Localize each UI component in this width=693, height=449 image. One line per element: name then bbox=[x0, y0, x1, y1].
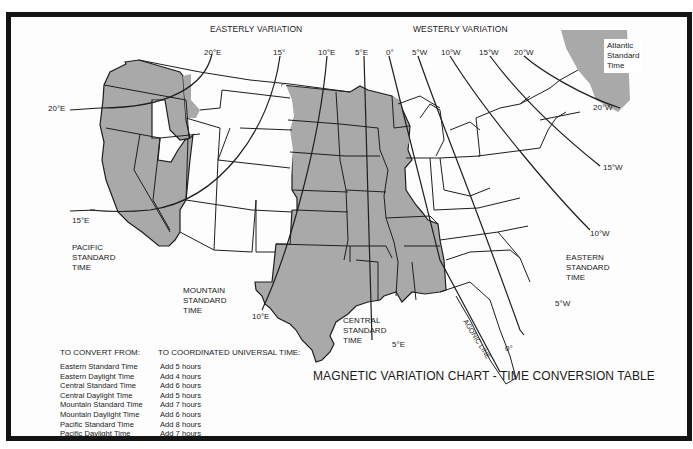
table-row: Eastern Standard TimeAdd 5 hours bbox=[60, 362, 201, 372]
table-row: Pacific Daylight TimeAdd 7 hours bbox=[60, 429, 201, 439]
isogonic-10w bbox=[450, 56, 590, 230]
label-0-top: 0° bbox=[386, 49, 394, 57]
isogonic-20e-left bbox=[70, 108, 100, 110]
table-row: Pacific Standard TimeAdd 8 hours bbox=[60, 420, 201, 430]
label-10e-bottom: 10°E bbox=[252, 313, 269, 321]
eastern-standard-time-label: EASTERNSTANDARDTIME bbox=[566, 253, 609, 283]
table-row: Mountain Standard TimeAdd 7 hours bbox=[60, 400, 201, 410]
label-5e-top: 5°E bbox=[355, 49, 368, 57]
label-15e-left: 15°E bbox=[72, 217, 89, 225]
label-5w-top: 5°W bbox=[412, 49, 427, 57]
label-5e-bottom: 5°E bbox=[392, 341, 405, 349]
label-15w-top: 15°W bbox=[479, 49, 499, 57]
label-5w-right: 5°W bbox=[555, 300, 570, 308]
easterly-variation-header: EASTERLY VARIATION bbox=[210, 25, 302, 34]
label-10w-top: 10°W bbox=[441, 49, 461, 57]
label-10e-top: 10°E bbox=[318, 49, 335, 57]
convert-to-header: TO COORDINATED UNIVERSAL TIME: bbox=[158, 348, 300, 357]
label-20e-top: 20°E bbox=[204, 49, 221, 57]
convert-from-header: TO CONVERT FROM: bbox=[60, 348, 140, 357]
label-10w-right: 10°W bbox=[590, 230, 610, 238]
table-row: Central Standard TimeAdd 6 hours bbox=[60, 381, 201, 391]
label-20e-left: 20°E bbox=[48, 105, 65, 113]
time-conversion-table: TO CONVERT FROM: TO COORDINATED UNIVERSA… bbox=[60, 362, 201, 439]
label-0-bottom: 0° bbox=[505, 345, 513, 353]
central-standard-time-label: CENTRALSTANDARDTIME bbox=[343, 316, 386, 346]
pacific-standard-time-label: PACIFICSTANDARDTIME bbox=[72, 243, 115, 273]
label-15-top: 15° bbox=[273, 49, 285, 57]
atlantic-standard-time-label: AtlanticStandardTime bbox=[604, 39, 642, 73]
table-row: Mountain Daylight TimeAdd 6 hours bbox=[60, 410, 201, 420]
label-15w-right: 15°W bbox=[603, 164, 623, 172]
label-20w-top: 20°W bbox=[514, 49, 534, 57]
pacific-zone bbox=[100, 60, 193, 246]
table-row: Central Daylight TimeAdd 5 hours bbox=[60, 391, 201, 401]
mountain-standard-time-label: MOUNTAINSTANDARDTIME bbox=[183, 286, 226, 316]
label-20w-right: 20°W bbox=[593, 104, 613, 112]
chart-title: MAGNETIC VARIATION CHART - TIME CONVERSI… bbox=[313, 370, 655, 382]
westerly-variation-header: WESTERLY VARIATION bbox=[413, 25, 508, 34]
table-row: Eastern Daylight TimeAdd 4 hours bbox=[60, 372, 201, 382]
isogonic-15e-left bbox=[70, 210, 95, 211]
